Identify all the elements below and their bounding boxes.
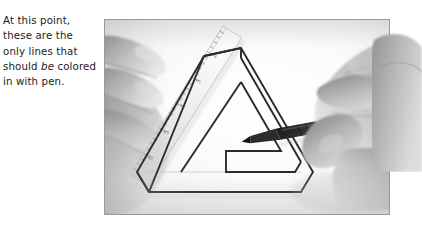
- caption-line: only lines that: [3, 44, 99, 59]
- caption-text: colored: [54, 61, 96, 72]
- caption-text: should: [3, 61, 41, 72]
- caption-text: only lines that: [3, 46, 78, 57]
- caption-line: At this point,: [3, 13, 99, 28]
- caption-text: in with pen.: [3, 76, 65, 87]
- caption-text: these are the: [3, 30, 73, 41]
- caption-text: At this point,: [3, 15, 70, 26]
- photo-scene: 2 3 4 5 6: [105, 20, 390, 215]
- caption-line: should be colored: [3, 59, 99, 74]
- vignette: [105, 20, 390, 215]
- caption-block: At this point, these are the only lines …: [3, 13, 99, 89]
- caption-line: these are the: [3, 28, 99, 43]
- caption-emphasis: be: [41, 61, 54, 72]
- photo-frame: 2 3 4 5 6: [104, 19, 390, 215]
- caption-line: in with pen.: [3, 74, 99, 89]
